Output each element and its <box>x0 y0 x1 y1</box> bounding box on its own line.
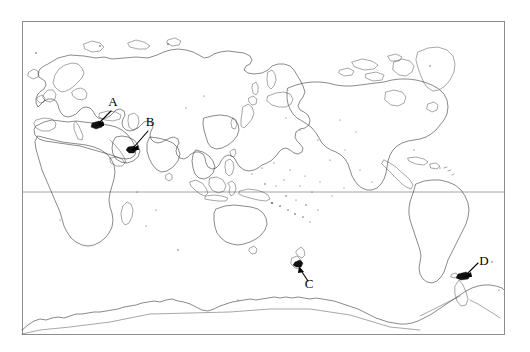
coastline-tasmania <box>249 246 257 254</box>
coastline-arctic-archipelago <box>339 54 402 81</box>
coastline-hokkaido <box>249 96 257 105</box>
coastline-scandinavia <box>53 63 84 92</box>
map-label-c: C <box>305 276 314 291</box>
coastline-philippines <box>225 159 234 176</box>
coastline-antarctica <box>22 285 504 330</box>
annotation-markers-group <box>91 121 471 280</box>
coastline-new-guinea <box>239 189 270 201</box>
coastline-italy <box>74 122 83 140</box>
coastline-alaska <box>267 92 293 107</box>
world-map-figure: A B C D <box>0 0 530 352</box>
coastline-baltic <box>72 88 87 100</box>
map-label-a: A <box>108 94 118 109</box>
coastline-japan <box>241 104 254 128</box>
coastline-north-america <box>287 79 448 190</box>
coastline-south-america <box>409 180 469 283</box>
coastline-taiwan <box>230 149 236 157</box>
coastlines-group <box>22 38 504 334</box>
coastline-eurasia <box>36 49 310 171</box>
coastline-sulawesi <box>228 181 236 196</box>
coastline-korea <box>231 118 237 129</box>
map-label-d: D <box>479 253 488 268</box>
marker-blob-c <box>293 260 303 267</box>
map-label-b: B <box>146 114 155 129</box>
coastline-baffin-island <box>393 59 414 76</box>
coastline-sumatra <box>190 180 208 196</box>
coastline-indochina <box>192 150 215 179</box>
coastline-svalbard <box>84 41 104 52</box>
coastline-caspian <box>128 113 139 130</box>
coastline-novaya-zemlya <box>128 40 150 49</box>
coastline-antarctic-detail <box>420 296 500 318</box>
coastline-severnaya-zemlya <box>167 38 181 46</box>
coastline-mediterranean <box>34 120 136 159</box>
coastline-madagascar <box>121 202 133 225</box>
coastline-greenland <box>416 47 455 91</box>
arrow-line-b <box>134 131 148 147</box>
coastline-antarctic-shelf <box>22 309 420 334</box>
coastline-australia <box>214 205 267 245</box>
coastline-central-america <box>382 160 413 189</box>
coastline-cuba <box>408 157 428 165</box>
arrow-line-d <box>467 263 478 274</box>
coastline-kamchatka <box>267 70 276 89</box>
coastline-iberia <box>34 118 56 131</box>
coastline-india <box>147 137 180 172</box>
coastline-sakhalin <box>252 82 258 95</box>
coastline-iceland <box>28 69 39 79</box>
coastline-newfoundland <box>427 102 438 112</box>
coastline-antarctic-peninsula <box>455 280 468 306</box>
coastline-east-asia <box>203 115 239 149</box>
coastline-lesser-antilles <box>444 167 454 175</box>
coastline-hispaniola <box>430 163 440 169</box>
map-frame <box>23 22 505 335</box>
coastline-sri-lanka <box>166 173 172 181</box>
coastline-borneo <box>209 177 226 193</box>
coastline-hudson-bay <box>385 90 406 106</box>
world-map-canvas: A B C D <box>0 0 530 352</box>
coastline-java <box>205 195 228 201</box>
